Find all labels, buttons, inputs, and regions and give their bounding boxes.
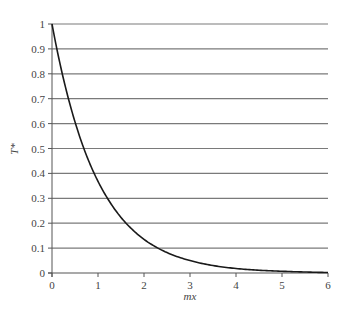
y-tick-label: 0 bbox=[40, 267, 46, 279]
chart: 00.10.20.30.40.50.60.70.80.91 0123456 mx… bbox=[0, 0, 344, 314]
x-tick-label: 1 bbox=[95, 279, 101, 291]
y-tick-label: 0.1 bbox=[31, 242, 45, 254]
y-tick-label: 1 bbox=[40, 18, 46, 30]
x-tick-label: 0 bbox=[49, 279, 55, 291]
x-tick-label: 5 bbox=[279, 279, 285, 291]
y-tick-label: 0.5 bbox=[31, 143, 45, 155]
y-tick-labels: 00.10.20.30.40.50.60.70.80.91 bbox=[31, 18, 45, 279]
y-tick-label: 0.7 bbox=[31, 93, 45, 105]
y-tick-label: 0.2 bbox=[31, 217, 45, 229]
x-tick-label: 4 bbox=[233, 279, 239, 291]
x-tick-label: 6 bbox=[325, 279, 331, 291]
y-axis-title: T* bbox=[8, 143, 20, 155]
x-axis-title: mx bbox=[184, 290, 197, 302]
y-tick-label: 0.6 bbox=[31, 118, 45, 130]
gridlines bbox=[48, 24, 328, 273]
y-tick-label: 0.9 bbox=[31, 43, 45, 55]
y-tick-label: 0.4 bbox=[31, 167, 45, 179]
axes bbox=[48, 24, 328, 277]
y-tick-label: 0.8 bbox=[31, 68, 45, 80]
x-tick-label: 2 bbox=[141, 279, 147, 291]
y-tick-label: 0.3 bbox=[31, 192, 45, 204]
